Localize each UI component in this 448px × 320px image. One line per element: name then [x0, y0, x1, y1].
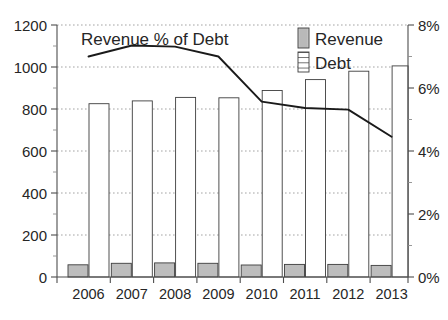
- right-tick-label-4pct: 4%: [418, 143, 440, 160]
- x-label-2013: 2013: [375, 286, 407, 302]
- bar-group-2006: [68, 104, 109, 277]
- line-series-annotation: Revenue % of Debt: [81, 30, 229, 49]
- category-axis-labels: 2006 2007 2008 2009 2010 2011 2012 2013: [72, 286, 407, 302]
- bar-debt-2006: [89, 104, 109, 277]
- bar-debt-2010: [262, 91, 282, 278]
- bar-revenue-2008: [155, 263, 175, 277]
- x-label-2008: 2008: [159, 286, 191, 302]
- bar-debt-2009: [219, 98, 239, 277]
- chart-canvas: 1200 1000 800 600 400 200 0 8% 6% 4% 2% …: [0, 0, 448, 320]
- bar-debt-2007: [132, 101, 152, 277]
- bar-group-2010: [241, 91, 282, 278]
- x-label-2009: 2009: [202, 286, 234, 302]
- bar-revenue-2012: [328, 264, 348, 277]
- legend-item-debt[interactable]: Debt: [298, 52, 351, 73]
- right-axis-ticks: [408, 25, 414, 277]
- x-label-2006: 2006: [72, 286, 104, 302]
- legend-label-debt: Debt: [315, 54, 351, 73]
- left-axis-tick-labels: 1200 1000 800 600 400 200 0: [14, 17, 47, 286]
- left-axis-ticks: [51, 25, 57, 277]
- bar-group-2007: [111, 101, 152, 277]
- left-tick-label-0: 0: [39, 269, 47, 286]
- bar-group-2009: [198, 98, 239, 277]
- x-label-2011: 2011: [289, 286, 320, 302]
- bar-group-2012: [328, 71, 369, 277]
- bar-revenue-2006: [68, 265, 88, 277]
- legend-label-revenue: Revenue: [315, 30, 383, 49]
- bar-revenue-2011: [285, 264, 305, 277]
- x-label-2007: 2007: [116, 286, 148, 302]
- right-tick-label-0pct: 0%: [418, 269, 440, 286]
- bar-revenue-2007: [111, 263, 131, 277]
- chart-legend: Revenue Debt: [298, 28, 383, 73]
- bar-debt-2012: [349, 71, 369, 277]
- left-tick-label-400: 400: [22, 185, 47, 202]
- legend-swatch-revenue: [298, 28, 309, 48]
- left-tick-label-1000: 1000: [14, 59, 47, 76]
- left-tick-label-600: 600: [22, 143, 47, 160]
- bar-group-2008: [155, 97, 196, 277]
- bar-debt-2013: [392, 66, 408, 277]
- right-tick-label-2pct: 2%: [418, 206, 440, 223]
- legend-swatch-debt: [298, 52, 309, 72]
- left-tick-label-1200: 1200: [14, 17, 47, 34]
- right-tick-label-6pct: 6%: [418, 80, 440, 97]
- bar-group-2013: [371, 66, 408, 277]
- bar-revenue-2010: [241, 265, 261, 277]
- right-tick-label-8pct: 8%: [418, 17, 440, 34]
- x-label-2010: 2010: [246, 286, 278, 302]
- x-label-2012: 2012: [332, 286, 364, 302]
- left-tick-label-200: 200: [22, 227, 47, 244]
- right-axis-tick-labels: 8% 6% 4% 2% 0%: [418, 17, 440, 286]
- left-tick-label-800: 800: [22, 101, 47, 118]
- bar-debt-2008: [176, 97, 196, 277]
- legend-item-revenue[interactable]: Revenue: [298, 28, 383, 49]
- bottom-axis-ticks: [57, 277, 408, 283]
- chart-container: 1200 1000 800 600 400 200 0 8% 6% 4% 2% …: [0, 0, 448, 320]
- bar-revenue-2009: [198, 263, 218, 277]
- bar-revenue-2013: [371, 265, 391, 277]
